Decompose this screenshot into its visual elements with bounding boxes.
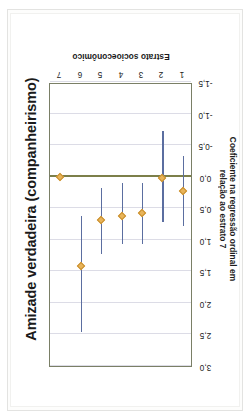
value-tick-label: 0,5 xyxy=(200,205,211,214)
confidence-interval-bar xyxy=(81,216,82,332)
plot-area xyxy=(49,83,192,367)
data-point-marker xyxy=(76,262,84,270)
data-point-marker xyxy=(56,172,64,180)
category-axis-title: Estrato socioeconômico xyxy=(72,52,169,62)
value-gridline xyxy=(50,81,191,82)
data-point-marker xyxy=(179,187,187,195)
value-tick-label: 2,0 xyxy=(200,299,211,308)
value-gridline xyxy=(50,113,191,114)
value-axis-title-line1: Coeficiente na regressão ordinal em xyxy=(228,137,238,281)
value-gridline xyxy=(50,333,191,334)
value-gridline xyxy=(50,302,191,303)
value-axis-title: Coeficiente na regressão ordinal em rela… xyxy=(218,23,238,395)
value-gridline xyxy=(50,270,191,271)
data-point-marker xyxy=(97,215,105,223)
zero-reference-line xyxy=(50,175,191,177)
value-tick-label: -1,0 xyxy=(198,110,212,119)
data-point-marker xyxy=(138,209,146,217)
value-tick-label: 1,5 xyxy=(200,268,211,277)
value-tick-label: 3,0 xyxy=(200,363,211,372)
value-gridline xyxy=(50,144,191,145)
figure: Amizade verdadeira (companheirismo) Coef… xyxy=(0,0,250,419)
chart-title: Amizade verdadeira (companheirismo) xyxy=(23,23,39,395)
value-tick-label: -0,5 xyxy=(198,142,212,151)
value-tick-label: 2,5 xyxy=(200,331,211,340)
value-gridline xyxy=(50,239,191,240)
value-axis-title-line2: relação ao estrato 7 xyxy=(218,23,228,395)
value-tick-label: -1,5 xyxy=(198,79,212,88)
category-tick-label: 2 xyxy=(159,70,164,79)
category-tick-label: 4 xyxy=(118,70,123,79)
category-tick-label: 3 xyxy=(139,70,144,79)
value-gridline xyxy=(50,207,191,208)
data-point-marker xyxy=(117,212,125,220)
category-tick-label: 1 xyxy=(180,70,185,79)
chart-canvas: Amizade verdadeira (companheirismo) Coef… xyxy=(19,23,231,395)
category-tick-label: 6 xyxy=(77,70,82,79)
value-gridline xyxy=(50,365,191,366)
category-tick-label: 7 xyxy=(57,70,62,79)
category-tick-label: 5 xyxy=(98,70,103,79)
value-tick-label: 1,0 xyxy=(200,236,211,245)
value-tick-label: 0,0 xyxy=(200,173,211,182)
